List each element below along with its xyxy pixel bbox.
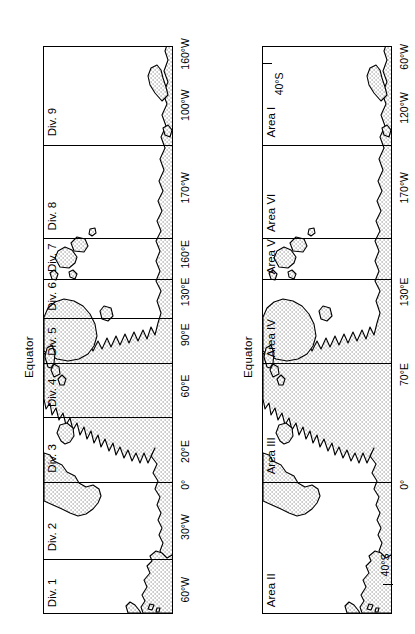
lon-label-30w: 30°W [179,514,191,540]
lon-label-0: 0° [179,480,191,490]
areas-map-frame [262,46,392,614]
lon-label-60w: 60°W [398,44,410,70]
lat-tick-40s-right [262,63,272,64]
sector-divider [263,279,391,280]
equator-label-areas: Equator [242,336,254,378]
lon-label-160w: 160°W [179,38,191,70]
lon-label-60e: 60°E [179,375,191,398]
lon-label-0: 0° [398,480,410,490]
lat-tick-40s-left [383,585,393,586]
sector-divider [44,318,172,319]
sector-label-div-8: Div. 8 [46,202,58,231]
lat-label-40s-right: 40°S [273,72,285,95]
sector-label-area-vi: Area VI [265,194,277,232]
areas-coastlines [263,46,392,613]
sector-divider [44,238,172,239]
lon-label-130e: 130°E [398,277,410,306]
divisions-map-frame [43,46,173,614]
lon-label-160e: 160°E [179,240,191,269]
sector-label-area-ii: Area II [265,573,277,607]
sector-label-div-5: Div. 5 [46,327,58,356]
sector-label-area-iv: Area IV [265,319,277,357]
sector-divider [44,145,172,146]
lon-label-100w: 100°W [179,89,191,121]
lat-label-40s-left: 40°S [379,554,391,577]
sector-label-div-4: Div. 4 [46,379,58,408]
divisions-map-panel: Equator [21,44,196,614]
sector-divider [44,559,172,560]
lon-label-90e: 90°E [179,323,191,346]
sector-label-div-7: Div. 7 [46,243,58,272]
equator-label-divisions: Equator [23,336,35,378]
sector-label-area-v: Area V [265,239,277,274]
sector-divider [263,363,391,364]
sector-divider [263,145,391,146]
sector-label-div-1: Div. 1 [46,579,58,608]
lon-label-170w: 170°W [398,172,410,204]
lon-label-60w: 60°W [179,577,191,603]
lon-label-70e: 70°E [398,363,410,386]
sector-divider [44,417,172,418]
divisions-coastlines [44,46,173,613]
sector-divider [44,279,172,280]
lon-label-20e: 20°E [179,440,191,463]
sector-label-area-i: Area I [265,107,277,138]
sector-label-div-6: Div. 6 [46,282,58,311]
sector-label-div-9: Div. 9 [46,108,58,137]
sector-divider [263,238,391,239]
sector-label-area-iii: Area III [265,437,277,474]
sector-divider [263,482,391,483]
areas-map-panel: Equator [240,44,415,614]
lon-label-130e: 130°E [179,277,191,306]
sector-label-div-2: Div. 2 [46,523,58,552]
lon-label-170w: 170°W [179,172,191,204]
sector-label-div-3: Div. 3 [46,444,58,473]
sector-divider [44,363,172,364]
lon-label-120w: 120°W [398,92,410,124]
sector-divider [44,482,172,483]
